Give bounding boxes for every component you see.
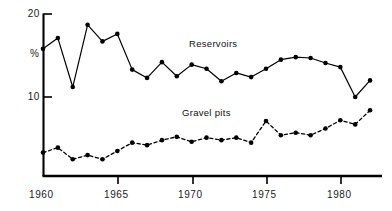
data-point bbox=[368, 78, 373, 83]
data-point bbox=[160, 60, 165, 65]
data-point bbox=[264, 119, 269, 124]
data-point bbox=[130, 140, 135, 145]
data-point bbox=[338, 118, 343, 123]
data-point bbox=[293, 55, 298, 60]
series-line bbox=[43, 25, 370, 97]
data-point bbox=[204, 135, 209, 140]
data-point bbox=[279, 57, 284, 62]
data-point bbox=[85, 153, 90, 158]
series-label-gravel-pits: Gravel pits bbox=[182, 107, 231, 118]
data-point bbox=[338, 65, 343, 70]
data-point bbox=[115, 32, 120, 37]
data-point bbox=[145, 143, 150, 148]
data-point bbox=[308, 133, 313, 138]
y-tick-label-10: 10 bbox=[22, 91, 40, 102]
data-point bbox=[41, 150, 46, 155]
y-axis-ticks bbox=[44, 14, 53, 97]
data-point bbox=[100, 157, 105, 162]
data-point bbox=[56, 145, 61, 150]
data-point bbox=[219, 138, 224, 143]
data-point bbox=[115, 149, 120, 154]
data-point bbox=[323, 126, 328, 131]
data-point bbox=[204, 66, 209, 71]
data-point bbox=[234, 135, 239, 140]
data-point bbox=[323, 61, 328, 66]
data-point bbox=[130, 67, 135, 72]
y-tick-label-20: 20 bbox=[22, 8, 40, 19]
data-point bbox=[70, 157, 75, 162]
data-point bbox=[234, 71, 239, 76]
data-point bbox=[41, 47, 46, 52]
data-point bbox=[100, 39, 105, 44]
line-chart-plot bbox=[0, 0, 392, 211]
data-point bbox=[85, 22, 90, 27]
data-point bbox=[308, 56, 313, 61]
data-point bbox=[175, 74, 180, 79]
data-point bbox=[293, 130, 298, 135]
x-tick-label-1970: 1970 bbox=[178, 189, 203, 200]
data-point bbox=[219, 79, 224, 84]
data-point bbox=[189, 62, 194, 67]
data-point bbox=[368, 108, 373, 113]
x-tick-label-1960: 1960 bbox=[29, 189, 54, 200]
data-point bbox=[353, 122, 358, 127]
data-point bbox=[189, 140, 194, 145]
series-reservoirs bbox=[41, 22, 373, 99]
x-tick-label-1980: 1980 bbox=[327, 189, 352, 200]
data-point bbox=[353, 95, 358, 100]
data-point bbox=[175, 135, 180, 140]
y-axis-unit-label: % bbox=[30, 48, 39, 59]
data-point bbox=[264, 66, 269, 71]
data-point bbox=[279, 133, 284, 138]
data-point bbox=[160, 138, 165, 143]
series-label-reservoirs: Reservoirs bbox=[189, 38, 237, 49]
data-point bbox=[70, 85, 75, 90]
data-point bbox=[145, 76, 150, 81]
chart-container: 20 10 % 1960 1965 1970 1975 1980 Reservo… bbox=[0, 0, 392, 211]
data-point bbox=[249, 75, 254, 80]
data-point bbox=[249, 140, 254, 145]
x-tick-label-1965: 1965 bbox=[104, 189, 129, 200]
data-point bbox=[56, 36, 61, 41]
x-tick-label-1975: 1975 bbox=[252, 189, 277, 200]
